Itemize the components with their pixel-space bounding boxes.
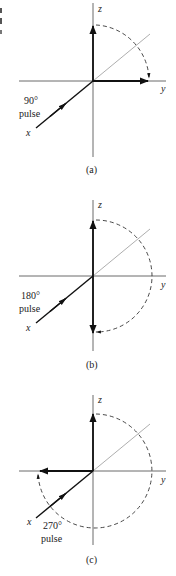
- pulse-word: pulse: [19, 108, 41, 119]
- z-label: z: [97, 3, 102, 14]
- y-label: y: [160, 279, 166, 290]
- z-label: z: [97, 199, 102, 210]
- y-label: y: [160, 474, 166, 485]
- pulse-word: pulse: [41, 533, 63, 544]
- x-label: x: [26, 516, 32, 527]
- y-label: y: [160, 83, 166, 94]
- panel-c: z y x 270° pulse (c): [19, 394, 166, 566]
- pulse-rotation-diagram: z y x 90° pulse (a) z y x 180° pulse (b)…: [0, 0, 176, 576]
- pulse-angle: 90°: [24, 95, 38, 106]
- x-axis-back: [93, 229, 150, 276]
- x-axis-back: [93, 34, 150, 81]
- pulse-arrow-icon: [50, 103, 66, 116]
- rotation-arc-icon: [96, 25, 149, 78]
- pulse-arrow-icon: [50, 298, 66, 311]
- z-label: z: [97, 394, 102, 405]
- caption: (b): [86, 359, 98, 371]
- pulse-angle: 180°: [21, 290, 40, 301]
- pulse-word: pulse: [19, 303, 41, 314]
- panel-b: z y x 180° pulse (b): [19, 199, 166, 371]
- x-label: x: [25, 127, 31, 138]
- pulse-arrow-icon: [50, 493, 66, 506]
- x-axis-back: [93, 424, 150, 471]
- caption: (c): [86, 554, 97, 566]
- x-label: x: [25, 322, 31, 333]
- pulse-angle: 270°: [43, 520, 62, 531]
- edge-text-fragments: [0, 8, 2, 34]
- caption: (a): [86, 164, 97, 176]
- panel-a: z y x 90° pulse (a): [19, 3, 166, 176]
